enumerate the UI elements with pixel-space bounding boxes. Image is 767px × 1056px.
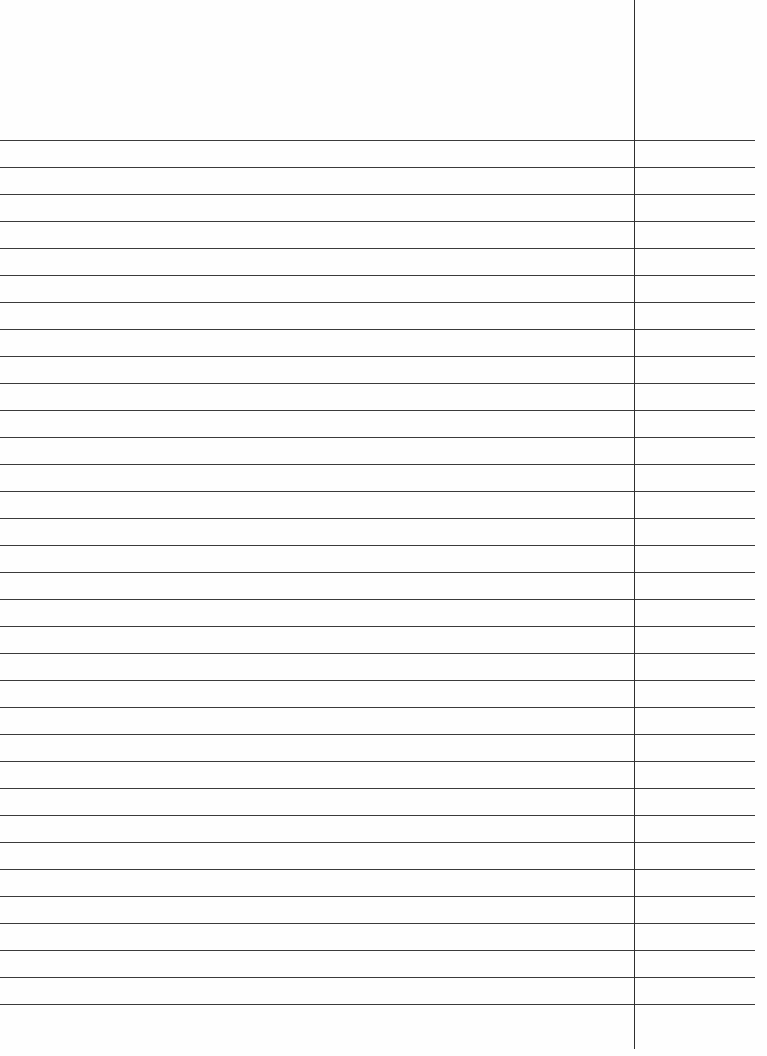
ruled-line — [0, 896, 755, 897]
ruled-line — [0, 545, 755, 546]
ruled-line — [0, 842, 755, 843]
ruled-line — [0, 275, 755, 276]
ruled-line — [0, 761, 755, 762]
ruled-line — [0, 1004, 755, 1005]
lined-paper-page — [0, 0, 767, 1056]
ruled-line — [0, 815, 755, 816]
ruled-line — [0, 680, 755, 681]
ruled-line — [0, 383, 755, 384]
ruled-line — [0, 653, 755, 654]
ruled-line — [0, 221, 755, 222]
ruled-line — [0, 248, 755, 249]
ruled-line — [0, 518, 755, 519]
ruled-line — [0, 869, 755, 870]
ruled-line — [0, 572, 755, 573]
ruled-line — [0, 140, 755, 141]
ruled-line — [0, 734, 755, 735]
ruled-line — [0, 329, 755, 330]
ruled-line — [0, 599, 755, 600]
margin-line — [634, 0, 635, 1049]
ruled-line — [0, 977, 755, 978]
ruled-line — [0, 923, 755, 924]
ruled-line — [0, 707, 755, 708]
ruled-line — [0, 788, 755, 789]
ruled-line — [0, 410, 755, 411]
ruled-line — [0, 491, 755, 492]
ruled-line — [0, 464, 755, 465]
ruled-line — [0, 950, 755, 951]
ruled-line — [0, 437, 755, 438]
ruled-line — [0, 167, 755, 168]
ruled-line — [0, 626, 755, 627]
ruled-line — [0, 356, 755, 357]
ruled-line — [0, 194, 755, 195]
ruled-line — [0, 302, 755, 303]
